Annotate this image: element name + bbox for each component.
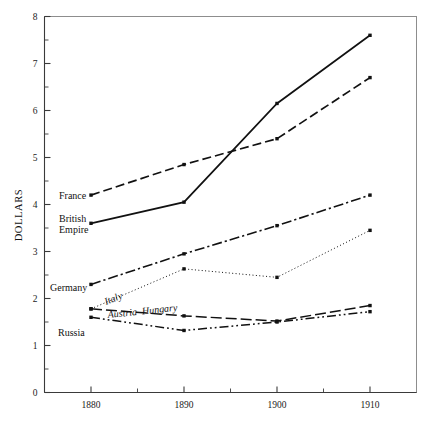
data-point-marker — [275, 224, 278, 227]
data-point-marker — [182, 163, 185, 166]
data-point-marker — [89, 307, 92, 310]
series-label-austria-hungary: Austria–Hungary — [106, 302, 178, 320]
series-line-british-empire — [91, 35, 370, 223]
data-point-marker — [182, 267, 185, 270]
x-tick-label: 1880 — [82, 400, 101, 410]
y-axis-major-ticks — [45, 17, 51, 393]
data-point-marker — [182, 200, 185, 203]
line-chart: 012345678 1880189019001910 DOLLARS Franc… — [0, 0, 440, 429]
series-label-empire: Empire — [59, 224, 89, 235]
y-tick-label: 0 — [33, 388, 38, 398]
data-point-marker — [89, 193, 92, 196]
data-point-marker — [275, 137, 278, 140]
series-label-british: British — [59, 213, 86, 224]
x-axis-minor-ticks — [138, 389, 324, 393]
data-point-marker — [89, 283, 92, 286]
data-point-marker — [275, 320, 278, 323]
series-label-germany: Germany — [50, 282, 87, 293]
y-axis-tick-labels: 012345678 — [33, 12, 38, 398]
series-label-france: France — [59, 190, 87, 201]
series-markers-group — [89, 34, 371, 333]
data-point-marker — [182, 329, 185, 332]
y-tick-label: 4 — [33, 200, 38, 210]
series-label-italy: Italy — [102, 290, 125, 308]
data-point-marker — [182, 314, 185, 317]
series-line-italy — [91, 230, 370, 308]
data-point-marker — [368, 310, 371, 313]
chart-canvas: 012345678 1880189019001910 DOLLARS Franc… — [0, 0, 440, 429]
x-tick-label: 1890 — [175, 400, 194, 410]
data-point-marker — [182, 252, 185, 255]
plot-frame — [45, 17, 417, 393]
x-axis-tick-labels: 1880189019001910 — [82, 400, 380, 410]
y-tick-label: 7 — [33, 59, 38, 69]
data-point-marker — [89, 316, 92, 319]
data-point-marker — [368, 34, 371, 37]
data-point-marker — [368, 193, 371, 196]
x-tick-label: 1900 — [268, 400, 287, 410]
data-point-marker — [275, 102, 278, 105]
y-tick-label: 2 — [33, 294, 38, 304]
x-tick-label: 1910 — [361, 400, 380, 410]
y-tick-label: 8 — [33, 12, 38, 22]
data-point-marker — [368, 76, 371, 79]
data-point-marker — [368, 229, 371, 232]
series-line-france — [91, 78, 370, 196]
y-tick-label: 3 — [33, 247, 38, 257]
y-tick-label: 5 — [33, 153, 38, 163]
y-tick-label: 1 — [33, 341, 38, 351]
data-point-marker — [89, 222, 92, 225]
data-point-marker — [368, 304, 371, 307]
series-lines-group — [91, 35, 370, 330]
series-label-russia: Russia — [58, 327, 85, 338]
series-line-germany — [91, 195, 370, 284]
y-tick-label: 6 — [33, 106, 38, 116]
data-point-marker — [275, 276, 278, 279]
y-axis-title: DOLLARS — [13, 189, 24, 242]
